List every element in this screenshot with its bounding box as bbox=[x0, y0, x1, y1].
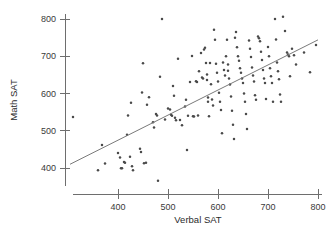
data-point bbox=[127, 114, 130, 117]
data-point bbox=[269, 67, 272, 70]
data-point bbox=[225, 55, 228, 58]
data-point bbox=[274, 18, 277, 21]
data-point bbox=[227, 63, 230, 66]
data-point bbox=[276, 61, 279, 64]
data-point bbox=[185, 99, 188, 102]
data-point bbox=[272, 100, 275, 103]
data-point bbox=[216, 71, 219, 74]
data-point bbox=[253, 80, 256, 83]
x-tick-label-600: 600 bbox=[210, 202, 225, 212]
data-point bbox=[240, 71, 243, 74]
data-point bbox=[223, 69, 226, 72]
y-tick-label-800: 800 bbox=[41, 14, 56, 24]
data-point bbox=[213, 29, 216, 32]
x-axis-tick-labels: 400500600700800 bbox=[110, 202, 325, 212]
data-point bbox=[129, 156, 132, 159]
data-point bbox=[211, 98, 214, 101]
data-point bbox=[72, 116, 75, 119]
data-point bbox=[264, 82, 267, 85]
x-tick-label-400: 400 bbox=[110, 202, 125, 212]
data-point bbox=[156, 114, 159, 117]
data-point bbox=[124, 162, 127, 165]
data-point bbox=[303, 51, 306, 54]
data-point bbox=[174, 116, 177, 119]
data-point bbox=[263, 77, 266, 80]
data-point bbox=[171, 115, 174, 118]
data-point bbox=[309, 71, 312, 74]
data-point bbox=[234, 36, 237, 39]
y-tick-label-600: 600 bbox=[41, 89, 56, 99]
data-point bbox=[179, 119, 182, 122]
data-point bbox=[224, 74, 227, 77]
data-point bbox=[181, 124, 184, 127]
data-point bbox=[235, 31, 238, 34]
data-point bbox=[217, 80, 220, 83]
y-axis-tick-labels: 400500600700800 bbox=[41, 14, 56, 173]
data-point bbox=[233, 138, 236, 141]
data-point bbox=[140, 151, 143, 154]
y-axis-group: 400500600700800 bbox=[41, 14, 70, 186]
x-tick-label-500: 500 bbox=[160, 202, 175, 212]
data-point bbox=[206, 79, 209, 82]
data-point bbox=[245, 113, 248, 116]
data-point bbox=[230, 95, 233, 98]
data-point bbox=[315, 44, 318, 47]
data-point bbox=[177, 58, 180, 61]
data-point bbox=[197, 114, 200, 117]
data-point bbox=[236, 46, 239, 49]
data-point bbox=[202, 77, 205, 80]
data-point bbox=[275, 38, 278, 41]
data-point bbox=[208, 115, 211, 118]
data-points-layer bbox=[72, 16, 318, 182]
data-point bbox=[193, 115, 196, 118]
data-point bbox=[172, 85, 175, 88]
data-point bbox=[218, 92, 221, 95]
x-tick-label-700: 700 bbox=[260, 202, 275, 212]
y-tick-label-700: 700 bbox=[41, 51, 56, 61]
data-point bbox=[130, 102, 133, 105]
data-point bbox=[221, 132, 224, 135]
y-axis-title: Math SAT bbox=[8, 79, 19, 121]
data-point bbox=[268, 55, 271, 58]
data-point bbox=[277, 70, 280, 73]
data-point bbox=[104, 162, 107, 165]
data-point bbox=[210, 83, 213, 86]
data-point bbox=[244, 100, 247, 103]
data-point bbox=[260, 51, 263, 54]
y-tick-label-400: 400 bbox=[41, 163, 56, 173]
data-point bbox=[228, 77, 231, 80]
data-point bbox=[159, 75, 162, 78]
data-point bbox=[262, 69, 265, 72]
data-point bbox=[291, 48, 294, 51]
data-point bbox=[207, 96, 210, 99]
data-point bbox=[119, 156, 122, 159]
x-axis-group: 400500600700800 bbox=[73, 189, 326, 212]
data-point bbox=[250, 56, 253, 59]
data-point bbox=[254, 94, 257, 97]
data-point bbox=[161, 18, 164, 21]
data-point bbox=[206, 73, 209, 76]
data-point bbox=[141, 91, 144, 94]
x-tick-label-800: 800 bbox=[310, 202, 325, 212]
data-point bbox=[101, 144, 104, 147]
data-point bbox=[231, 109, 234, 112]
data-point bbox=[189, 81, 192, 84]
data-point bbox=[265, 98, 268, 101]
data-point bbox=[200, 52, 203, 55]
data-point bbox=[284, 30, 287, 32]
data-point bbox=[232, 124, 235, 127]
data-point bbox=[267, 46, 270, 49]
data-point bbox=[169, 108, 172, 111]
data-point bbox=[289, 75, 292, 78]
plot-canvas: 400500600700800 400500600700800 Verbal S… bbox=[0, 0, 335, 240]
data-point bbox=[145, 162, 148, 165]
data-point bbox=[237, 55, 240, 58]
data-point bbox=[117, 152, 120, 155]
data-point bbox=[248, 39, 251, 42]
data-point bbox=[186, 149, 189, 152]
data-point bbox=[139, 147, 142, 150]
data-point bbox=[142, 62, 145, 65]
data-point bbox=[242, 82, 245, 85]
data-point bbox=[157, 179, 160, 182]
data-point bbox=[259, 40, 262, 43]
